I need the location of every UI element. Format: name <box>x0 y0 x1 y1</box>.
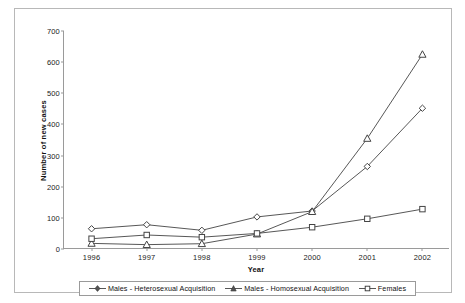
data-point-marker <box>88 226 94 232</box>
series-line <box>92 108 423 230</box>
y-axis-tick-label: 100 <box>47 213 60 222</box>
x-axis-tick-label: 1998 <box>193 253 211 262</box>
y-axis-tick-mark <box>61 31 64 32</box>
x-axis-tick-mark <box>91 248 92 251</box>
y-axis-tick-label: 200 <box>47 182 60 191</box>
diamond-marker-icon <box>89 284 106 293</box>
y-axis-tick-label: 600 <box>47 58 60 67</box>
y-axis-tick-label: 500 <box>47 89 60 98</box>
data-point-marker <box>364 135 371 141</box>
x-axis-tick-label: 2002 <box>414 253 432 262</box>
square-marker-icon <box>359 284 376 293</box>
triangle-marker-icon <box>225 284 242 293</box>
data-point-marker <box>365 216 370 221</box>
data-point-marker <box>254 231 259 236</box>
legend-label: Males - Heterosexual Acquisition <box>108 284 215 293</box>
y-axis-tick-label: 700 <box>47 27 60 36</box>
chart-legend: Males - Heterosexual Acquisition Males -… <box>79 281 416 296</box>
x-axis-tick-mark <box>312 248 313 251</box>
x-axis-tick-mark <box>367 248 368 251</box>
y-axis-tick-mark <box>61 155 64 156</box>
y-axis-tick-mark <box>61 217 64 218</box>
y-axis-tick-label: 400 <box>47 120 60 129</box>
data-point-marker <box>420 206 425 211</box>
y-axis-tick-label: 300 <box>47 151 60 160</box>
x-axis-tick-label: 2001 <box>359 253 377 262</box>
x-axis-tick-label: 1996 <box>83 253 101 262</box>
series-3 <box>89 206 425 241</box>
y-axis-tick-label: 0 <box>56 245 60 254</box>
legend-item-males-homosexual[interactable]: Males - Homosexual Acquisition <box>225 284 349 293</box>
data-point-marker <box>309 225 314 230</box>
legend-label: Males - Homosexual Acquisition <box>244 284 349 293</box>
y-axis-title-text: Number of new cases <box>39 100 48 181</box>
data-point-marker <box>254 214 260 220</box>
y-axis-tick-mark <box>61 124 64 125</box>
x-axis-tick-label: 1997 <box>138 253 156 262</box>
data-point-marker <box>144 232 149 237</box>
x-axis-tick-mark <box>257 248 258 251</box>
chart-frame: Number of new cases 01002003004005006007… <box>14 8 452 293</box>
x-axis-tick-label: 2000 <box>303 253 321 262</box>
data-point-marker <box>144 222 150 228</box>
x-axis-tick-mark <box>201 248 202 251</box>
data-point-marker <box>89 236 94 241</box>
legend-item-females[interactable]: Females <box>359 284 406 293</box>
legend-label: Females <box>378 284 406 293</box>
y-axis-tick-mark <box>61 186 64 187</box>
x-axis-tick-mark <box>422 248 423 251</box>
y-axis-tick-mark <box>61 249 64 250</box>
data-point-marker <box>419 51 426 57</box>
chart-page: Number of new cases 01002003004005006007… <box>0 0 465 303</box>
x-axis-title: Year <box>63 265 449 274</box>
data-point-marker <box>199 227 205 233</box>
x-axis-tick-label: 1999 <box>248 253 266 262</box>
series-1 <box>88 105 425 233</box>
y-axis-tick-mark <box>61 62 64 63</box>
x-axis-tick-mark <box>146 248 147 251</box>
plot-area: 0100200300400500600700199619971998199920… <box>63 31 449 249</box>
data-point-marker <box>199 234 204 239</box>
legend-item-males-heterosexual[interactable]: Males - Heterosexual Acquisition <box>89 284 215 293</box>
y-axis-tick-mark <box>61 93 64 94</box>
series-layer <box>64 31 450 249</box>
